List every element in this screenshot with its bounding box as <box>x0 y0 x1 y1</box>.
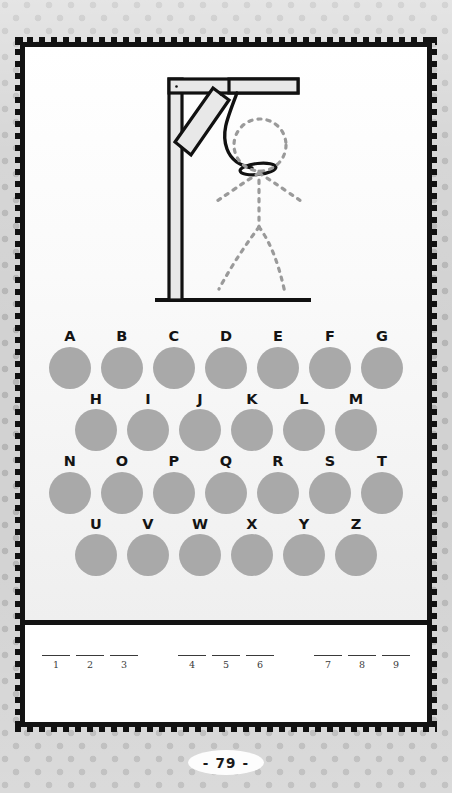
letter-label: C <box>169 329 180 344</box>
letter-dot[interactable] <box>101 347 143 389</box>
letter-cell-l[interactable]: L <box>278 392 330 452</box>
letter-dot[interactable] <box>309 347 351 389</box>
letter-dot[interactable] <box>283 409 325 451</box>
letter-dot[interactable] <box>309 472 351 514</box>
letter-label: Z <box>351 517 362 532</box>
answer-slot[interactable]: 8 <box>348 655 376 670</box>
letter-cell-d[interactable]: D <box>200 329 252 389</box>
figure-arm-right <box>259 173 301 201</box>
letter-cell-q[interactable]: Q <box>200 454 252 514</box>
letter-dot[interactable] <box>335 409 377 451</box>
letter-cell-f[interactable]: F <box>304 329 356 389</box>
letter-label: J <box>197 392 203 407</box>
letter-dot[interactable] <box>153 472 195 514</box>
letter-cell-r[interactable]: R <box>252 454 304 514</box>
letter-label: L <box>299 392 308 407</box>
letter-label: S <box>325 454 336 469</box>
letter-dot[interactable] <box>101 472 143 514</box>
alphabet-row: N O P Q <box>25 454 427 514</box>
letter-dot[interactable] <box>205 347 247 389</box>
answer-area: 1 2 3 4 <box>25 625 427 722</box>
answer-slot[interactable]: 7 <box>314 655 342 670</box>
answer-slot[interactable]: 4 <box>178 655 206 670</box>
figure-leg-left <box>219 227 259 289</box>
alphabet-row: H I J K <box>25 392 427 452</box>
letter-dot[interactable] <box>127 409 169 451</box>
stick-figure-dotted <box>217 119 301 293</box>
answer-number: 9 <box>393 660 399 670</box>
letter-cell-e[interactable]: E <box>252 329 304 389</box>
letter-cell-w[interactable]: W <box>174 517 226 577</box>
answer-slot[interactable]: 5 <box>212 655 240 670</box>
letter-label: Y <box>299 517 310 532</box>
alphabet-grid: A B C D <box>25 329 427 579</box>
answer-slot[interactable]: 2 <box>76 655 104 670</box>
letter-cell-p[interactable]: P <box>148 454 200 514</box>
letter-label: X <box>246 517 257 532</box>
letter-dot[interactable] <box>179 534 221 576</box>
letter-cell-n[interactable]: N <box>44 454 96 514</box>
letter-dot[interactable] <box>75 534 117 576</box>
letter-label: I <box>145 392 151 407</box>
answer-line <box>110 655 138 656</box>
letter-cell-b[interactable]: B <box>96 329 148 389</box>
letter-dot[interactable] <box>49 347 91 389</box>
letter-cell-k[interactable]: K <box>226 392 278 452</box>
letter-label: P <box>169 454 180 469</box>
letter-label: B <box>116 329 127 344</box>
letter-cell-s[interactable]: S <box>304 454 356 514</box>
answer-slot[interactable]: 9 <box>382 655 410 670</box>
letter-dot[interactable] <box>127 534 169 576</box>
letter-cell-z[interactable]: Z <box>330 517 382 577</box>
alphabet-row: A B C D <box>25 329 427 389</box>
answer-blanks: 1 2 3 4 <box>25 655 427 670</box>
letter-label: K <box>246 392 257 407</box>
letter-dot[interactable] <box>231 534 273 576</box>
letter-label: F <box>325 329 335 344</box>
letter-cell-y[interactable]: Y <box>278 517 330 577</box>
letter-cell-g[interactable]: G <box>356 329 408 389</box>
letter-dot[interactable] <box>283 534 325 576</box>
letter-cell-x[interactable]: X <box>226 517 278 577</box>
letter-label: V <box>142 517 153 532</box>
letter-label: A <box>64 329 75 344</box>
gallows-nail-icon <box>180 146 183 149</box>
letter-dot[interactable] <box>361 347 403 389</box>
answer-slot[interactable]: 1 <box>42 655 70 670</box>
answer-word-group: 7 8 9 <box>314 655 410 670</box>
answer-slot[interactable]: 6 <box>246 655 274 670</box>
letter-dot[interactable] <box>75 409 117 451</box>
gallows-post <box>169 79 182 300</box>
letter-dot[interactable] <box>231 409 273 451</box>
letter-dot[interactable] <box>205 472 247 514</box>
letter-label: D <box>220 329 232 344</box>
page-number-label: - 79 - <box>203 755 250 771</box>
card-frame: A B C D <box>20 42 432 727</box>
letter-dot[interactable] <box>257 472 299 514</box>
letter-cell-v[interactable]: V <box>122 517 174 577</box>
letter-cell-o[interactable]: O <box>96 454 148 514</box>
letter-dot[interactable] <box>179 409 221 451</box>
letter-cell-h[interactable]: H <box>70 392 122 452</box>
answer-number: 2 <box>87 660 93 670</box>
letter-dot[interactable] <box>335 534 377 576</box>
letter-label: R <box>272 454 283 469</box>
letter-cell-i[interactable]: I <box>122 392 174 452</box>
letter-cell-c[interactable]: C <box>148 329 200 389</box>
answer-line <box>348 655 376 656</box>
answer-number: 4 <box>189 660 195 670</box>
answer-slot[interactable]: 3 <box>110 655 138 670</box>
answer-line <box>42 655 70 656</box>
letter-dot[interactable] <box>257 347 299 389</box>
answer-line <box>212 655 240 656</box>
answer-line <box>178 655 206 656</box>
letter-dot[interactable] <box>153 347 195 389</box>
letter-cell-t[interactable]: T <box>356 454 408 514</box>
letter-cell-a[interactable]: A <box>44 329 96 389</box>
letter-label: U <box>90 517 102 532</box>
letter-cell-u[interactable]: U <box>70 517 122 577</box>
letter-cell-m[interactable]: M <box>330 392 382 452</box>
letter-cell-j[interactable]: J <box>174 392 226 452</box>
letter-dot[interactable] <box>49 472 91 514</box>
letter-dot[interactable] <box>361 472 403 514</box>
